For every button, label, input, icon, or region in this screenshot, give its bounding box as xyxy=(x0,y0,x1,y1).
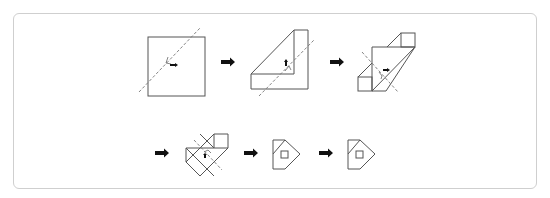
arrow-icon xyxy=(155,149,169,158)
step-5-pentagon xyxy=(273,140,300,169)
step-4-diamond xyxy=(186,134,228,176)
step-2-folded xyxy=(251,30,314,96)
arrow-icon xyxy=(330,58,344,67)
arrow-icon xyxy=(319,149,333,158)
step-6-pentagon xyxy=(348,140,375,169)
step-3-parallelogram xyxy=(358,33,415,92)
arrow-icon xyxy=(244,149,258,158)
step-1-square xyxy=(139,28,205,96)
arrow-icon xyxy=(221,58,235,67)
folding-diagram xyxy=(0,0,550,198)
